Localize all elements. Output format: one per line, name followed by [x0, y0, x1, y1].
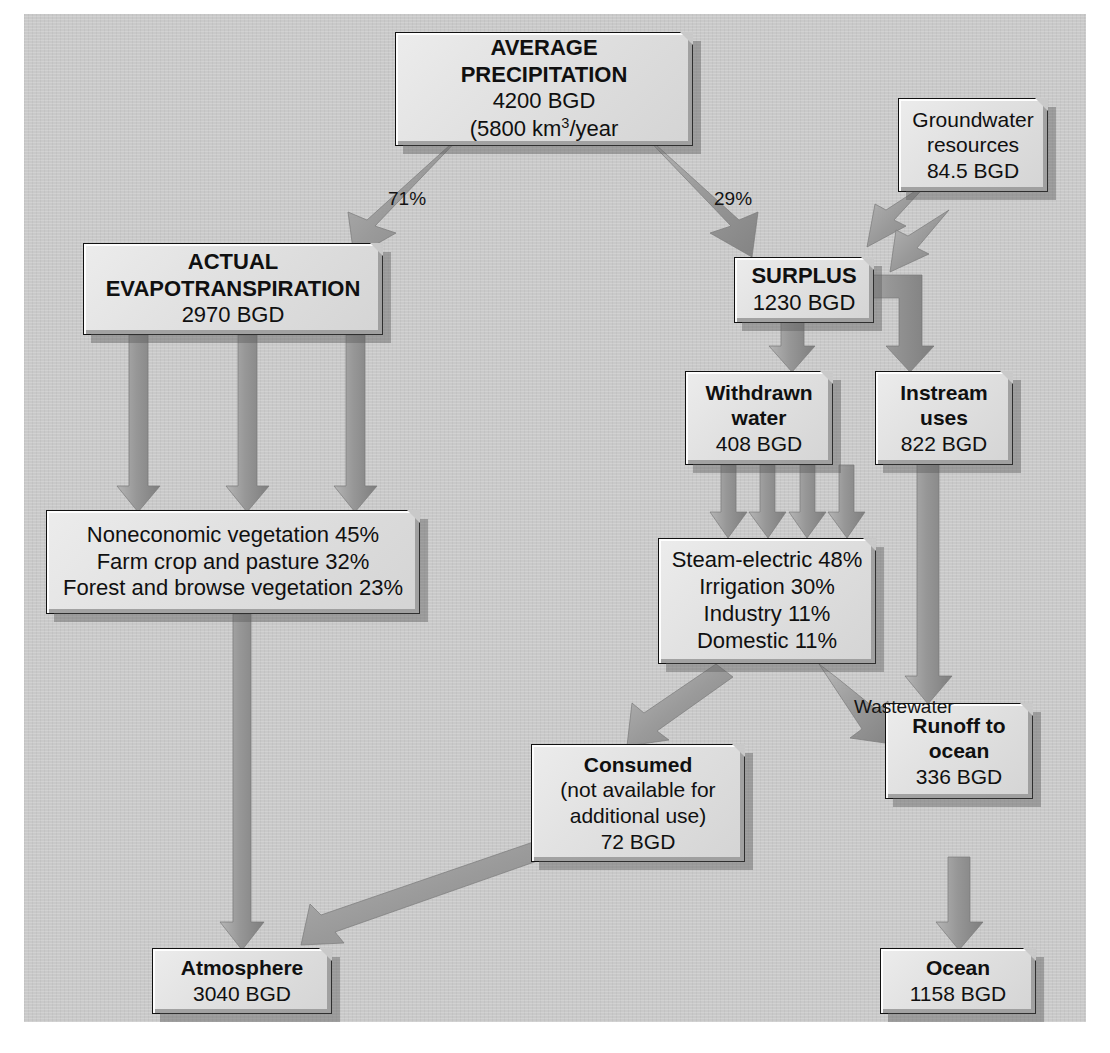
- precip-alt-pre: (5800 km: [470, 116, 562, 141]
- node-average-precipitation[interactable]: AVERAGE PRECIPITATION 4200 BGD (5800 km3…: [395, 32, 693, 146]
- consumed-line2: (not available for: [550, 777, 725, 803]
- arrow-evapotranspiration-to-vegetation-1: [117, 335, 160, 512]
- arrow-uses-to-consumed: [627, 664, 733, 746]
- box-corner: [1000, 371, 1013, 384]
- node-evapotranspiration-breakdown[interactable]: Noneconomic vegetation 45% Farm crop and…: [46, 510, 420, 614]
- precipitation-title: AVERAGE PRECIPITATION: [396, 35, 692, 89]
- instream-line1: Instream: [890, 380, 998, 406]
- box-corner: [861, 257, 874, 270]
- node-ocean[interactable]: Ocean 1158 BGD: [880, 948, 1036, 1014]
- atmosphere-title: Atmosphere: [171, 955, 314, 981]
- arrow-withdrawn-to-uses-1: [710, 465, 747, 538]
- box-corner: [1020, 703, 1033, 716]
- evapo-line2: EVAPOTRANSPIRATION: [96, 276, 371, 303]
- node-groundwater-resources[interactable]: Groundwater resources 84.5 BGD: [898, 98, 1048, 192]
- arrow-withdrawn-to-uses-2: [749, 465, 786, 538]
- instream-line2: uses: [910, 405, 978, 431]
- ocean-title: Ocean: [916, 955, 1000, 981]
- box-corner: [863, 538, 876, 551]
- evapo-value: 2970 BGD: [172, 302, 295, 329]
- runoff-value: 336 BGD: [906, 764, 1012, 790]
- precipitation-alt-value: (5800 km3/year: [460, 115, 629, 143]
- surplus-value: 1230 BGD: [743, 290, 866, 317]
- withdrawn-value: 408 BGD: [706, 431, 812, 457]
- uses-line4: Domestic 11%: [687, 628, 847, 655]
- box-corner: [1023, 948, 1036, 961]
- arrow-runoff-to-ocean: [936, 857, 983, 950]
- groundwater-line1: Groundwater: [902, 107, 1043, 133]
- consumed-line3: additional use): [560, 803, 717, 829]
- withdrawn-line2: water: [722, 405, 797, 431]
- precipitation-value: 4200 BGD: [483, 88, 606, 115]
- node-withdrawn-water[interactable]: Withdrawn water 408 BGD: [685, 371, 833, 465]
- node-consumed[interactable]: Consumed (not available for additional u…: [531, 744, 745, 862]
- diagram-stage: AVERAGE PRECIPITATION 4200 BGD (5800 km3…: [0, 0, 1110, 1053]
- node-surplus[interactable]: SURPLUS 1230 BGD: [734, 257, 874, 323]
- box-corner: [319, 948, 332, 961]
- arrow-withdrawn-to-uses-4: [828, 465, 865, 538]
- atmosphere-value: 3040 BGD: [183, 981, 301, 1007]
- box-corner: [732, 744, 745, 757]
- arrow-evapotranspiration-to-vegetation-3: [334, 335, 377, 512]
- uses-line1: Steam-electric 48%: [662, 547, 873, 574]
- instream-value: 822 BGD: [891, 431, 997, 457]
- arrow-evapotranspiration-to-vegetation-2: [226, 335, 269, 512]
- node-atmosphere[interactable]: Atmosphere 3040 BGD: [152, 948, 332, 1014]
- diagram-canvas: AVERAGE PRECIPITATION 4200 BGD (5800 km3…: [24, 14, 1086, 1022]
- box-corner: [407, 510, 420, 523]
- edge-label-71-percent: 71%: [388, 188, 426, 210]
- vegetation-line1: Noneconomic vegetation 45%: [77, 522, 389, 549]
- box-corner: [370, 243, 383, 256]
- ocean-value: 1158 BGD: [900, 981, 1017, 1007]
- uses-line3: Industry 11%: [694, 601, 841, 628]
- precip-alt-post: /year: [569, 116, 618, 141]
- vegetation-line2: Farm crop and pasture 32%: [87, 549, 380, 576]
- groundwater-value: 84.5 BGD: [917, 158, 1029, 184]
- withdrawn-line1: Withdrawn: [695, 380, 822, 406]
- consumed-title: Consumed: [574, 752, 703, 778]
- runoff-line2: ocean: [919, 738, 1000, 764]
- edge-label-29-percent: 29%: [714, 188, 752, 210]
- uses-line2: Irrigation 30%: [689, 574, 845, 601]
- box-corner: [820, 371, 833, 384]
- arrow-vegetation-to-atmosphere: [220, 614, 264, 950]
- surplus-title: SURPLUS: [741, 263, 866, 290]
- arrow-groundwater-to-surplus: [890, 210, 949, 272]
- box-corner: [1035, 98, 1048, 111]
- node-withdrawn-water-breakdown[interactable]: Steam-electric 48% Irrigation 30% Indust…: [658, 538, 876, 664]
- arrow-withdrawn-to-uses-3: [789, 465, 826, 538]
- node-actual-evapotranspiration[interactable]: ACTUAL EVAPOTRANSPIRATION 2970 BGD: [83, 243, 383, 335]
- consumed-value: 72 BGD: [591, 829, 686, 855]
- box-corner: [680, 32, 693, 45]
- evapo-line1: ACTUAL: [178, 249, 288, 276]
- arrow-instream-to-runoff: [905, 463, 952, 704]
- vegetation-line3: Forest and browse vegetation 23%: [53, 575, 413, 602]
- edge-label-wastewater: Wastewater: [854, 696, 954, 718]
- node-instream-uses[interactable]: Instream uses 822 BGD: [875, 371, 1013, 465]
- groundwater-line2: resources: [917, 132, 1029, 158]
